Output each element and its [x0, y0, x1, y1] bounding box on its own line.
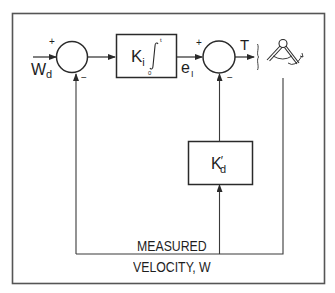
summing-junction-2	[203, 41, 235, 73]
integral-lower-limit: 0	[148, 70, 151, 76]
sum2-minus-sign: −	[227, 73, 233, 83]
integrator-gain: K	[131, 47, 142, 66]
integrator-gain-label: Ki	[131, 48, 145, 65]
torque-label: T	[240, 37, 249, 52]
integrator-gain-subscript: i	[142, 56, 144, 68]
integral-upper-limit: t	[160, 37, 162, 43]
input-symbol: W	[31, 61, 46, 78]
error-label: eI	[181, 60, 193, 76]
error-symbol: e	[181, 59, 190, 76]
integral-icon	[150, 43, 158, 69]
integrator-block	[117, 35, 177, 78]
sum1-minus-sign: −	[81, 73, 87, 83]
sum2-plus-sign: +	[196, 38, 202, 48]
input-label: Wd	[31, 62, 52, 78]
feedback-label-line1: MEASURED	[137, 238, 207, 253]
output-bracket	[258, 44, 259, 70]
derivative-gain-subscript: d	[220, 163, 226, 175]
input-subscript: d	[46, 68, 52, 80]
robot-joint-icon	[267, 40, 303, 65]
sum1-plus-sign: +	[49, 37, 55, 47]
summing-junction-1	[57, 42, 88, 73]
feedback-label-line2: VELOCITY, W	[133, 259, 211, 274]
derivative-gain-label: K′d	[211, 156, 226, 172]
